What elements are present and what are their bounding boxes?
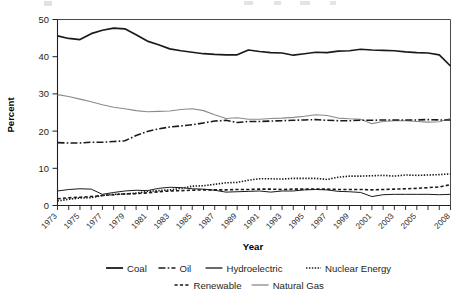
- x-axis-tick-labels: 1973197519771979198119831985198719891991…: [40, 211, 453, 231]
- legend-item-label: Coal: [127, 263, 147, 274]
- x-tick-label: 1997: [309, 211, 329, 231]
- y-tick-label: 10: [39, 163, 49, 174]
- legend-item[interactable]: Oil: [158, 263, 191, 274]
- x-tick-label: 1983: [152, 211, 172, 231]
- series-layer: [58, 28, 451, 201]
- legend-item-label: Natural Gas: [273, 280, 324, 291]
- legend-item-label: Nuclear Energy: [325, 263, 391, 274]
- x-tick-label: 1991: [242, 211, 262, 231]
- x-tick-label: 1995: [287, 211, 307, 231]
- series-line-natural-gas: [58, 95, 451, 124]
- legend-item-label: Renewable: [194, 280, 242, 291]
- chart-container: 50 40 30 20 10 0 Percent 197319751977197…: [0, 0, 467, 302]
- series-line-oil: [58, 120, 451, 143]
- x-tick-label: 1977: [85, 211, 105, 231]
- chart-legend: CoalOilHydroelectricNuclear EnergyRenewa…: [106, 263, 391, 291]
- y-tick-label: 30: [39, 88, 49, 99]
- x-tick-label: 1993: [264, 211, 284, 231]
- y-axis-title: Percent: [5, 97, 16, 133]
- y-axis-ticks: [53, 20, 58, 206]
- x-tick-label: 1979: [107, 211, 127, 231]
- x-tick-label: 2003: [377, 211, 397, 231]
- legend-item[interactable]: Natural Gas: [252, 280, 324, 291]
- energy-sources-line-chart: 50 40 30 20 10 0 Percent 197319751977197…: [0, 0, 467, 302]
- x-tick-label: 1989: [219, 211, 239, 231]
- series-line-nuclear-energy: [58, 174, 451, 201]
- x-tick-label: 1975: [62, 211, 82, 231]
- y-tick-label: 40: [39, 51, 49, 62]
- legend-item[interactable]: Coal: [106, 263, 147, 274]
- legend-item-label: Hydroelectric: [227, 263, 283, 274]
- plot-frame: [58, 20, 451, 206]
- x-tick-label: 1987: [197, 211, 217, 231]
- legend-item[interactable]: Hydroelectric: [206, 263, 283, 274]
- y-tick-label: 20: [39, 126, 49, 137]
- x-tick-label: 1981: [129, 211, 149, 231]
- y-tick-label: 0: [44, 200, 49, 211]
- y-axis-tick-labels: 50 40 30 20 10 0: [39, 14, 49, 211]
- x-tick-label: 1973: [40, 211, 60, 231]
- y-tick-label: 50: [39, 14, 49, 25]
- x-tick-label: 2008: [433, 211, 453, 231]
- x-axis-ticks: [58, 206, 451, 211]
- x-tick-label: 1985: [174, 211, 194, 231]
- x-tick-label: 2001: [354, 211, 374, 231]
- x-axis-title: Year: [243, 241, 264, 252]
- x-tick-label: 2005: [399, 211, 419, 231]
- x-tick-label: 1999: [332, 211, 352, 231]
- series-line-coal: [58, 28, 451, 66]
- legend-item[interactable]: Nuclear Energy: [306, 263, 391, 274]
- legend-item[interactable]: Renewable: [175, 280, 242, 291]
- scan-artifact-top: [44, 1, 336, 6]
- legend-item-label: Oil: [179, 263, 191, 274]
